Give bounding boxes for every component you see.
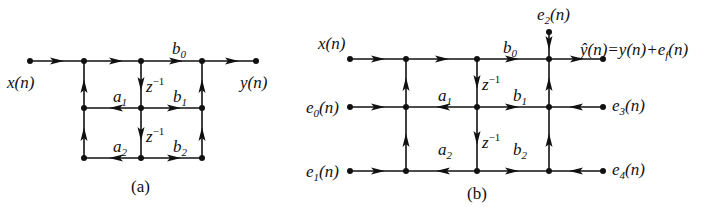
- node: [138, 155, 144, 161]
- node: [199, 58, 205, 64]
- input-node: [27, 58, 33, 64]
- node: [81, 155, 87, 161]
- coef-a1: a1: [113, 87, 127, 108]
- diagram-b: x(n) ŷ(n)=y(n)+ef(n) e2(n) e0(n) e1(n) e…: [306, 5, 688, 203]
- input-label: x(n): [6, 73, 35, 92]
- e2-node: [546, 29, 552, 35]
- coef-b2: b2: [173, 137, 188, 158]
- caption-a: (a): [131, 177, 150, 196]
- e3-node: [600, 104, 606, 110]
- node: [474, 56, 480, 62]
- coef-b2: b2: [513, 140, 528, 161]
- e3-label: e3(n): [612, 96, 645, 117]
- node: [403, 168, 409, 174]
- coef-a2: a2: [438, 140, 453, 161]
- e1-label: e1(n): [306, 162, 339, 183]
- node: [138, 58, 144, 64]
- e4-label: e4(n): [612, 160, 645, 181]
- input-node: [347, 56, 353, 62]
- signal-flow-diagrams: x(n) y(n) b0 b1 b2 a1 a2 z−1 z−1 (a): [0, 0, 725, 207]
- caption-b: (b): [467, 184, 487, 203]
- e4-node: [600, 168, 606, 174]
- node: [474, 104, 480, 110]
- output-label: ŷ(n)=y(n)+ef(n): [578, 40, 688, 61]
- node: [199, 155, 205, 161]
- delay-label-2: z−1: [481, 131, 500, 152]
- node: [403, 56, 409, 62]
- e0-label: e0(n): [306, 98, 339, 119]
- node: [199, 105, 205, 111]
- node: [81, 58, 87, 64]
- coef-b0: b0: [172, 39, 187, 60]
- node: [474, 168, 480, 174]
- node: [403, 104, 409, 110]
- input-label: x(n): [317, 34, 346, 53]
- coef-b1: b1: [173, 87, 187, 108]
- output-node: [253, 58, 259, 64]
- node: [546, 56, 552, 62]
- node: [138, 105, 144, 111]
- e0-node: [347, 104, 353, 110]
- node: [81, 105, 87, 111]
- delay-label-1: z−1: [481, 73, 500, 94]
- e2-label: e2(n): [537, 5, 570, 26]
- coef-b1: b1: [513, 86, 527, 107]
- coef-a2: a2: [113, 137, 128, 158]
- delay-label-1: z−1: [145, 75, 164, 96]
- node: [546, 104, 552, 110]
- output-label: y(n): [238, 73, 268, 92]
- delay-label-2: z−1: [145, 125, 164, 146]
- e1-node: [347, 168, 353, 174]
- node: [546, 168, 552, 174]
- coef-a1: a1: [438, 86, 452, 107]
- coef-b0: b0: [503, 38, 518, 59]
- diagram-a: x(n) y(n) b0 b1 b2 a1 a2 z−1 z−1 (a): [6, 39, 268, 196]
